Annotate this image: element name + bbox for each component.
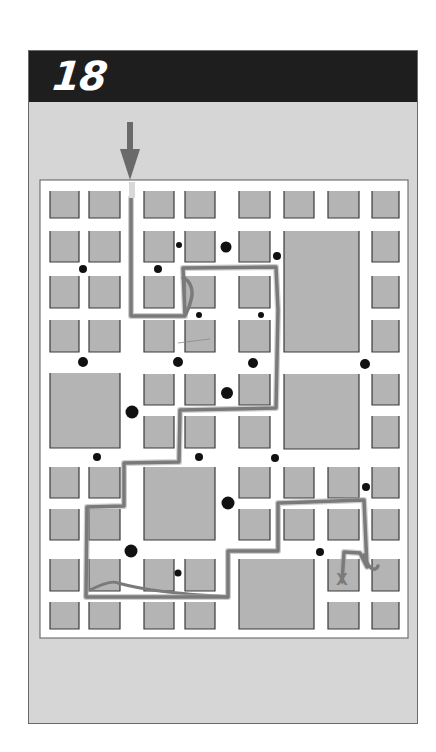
city-block bbox=[89, 509, 120, 540]
city-block bbox=[50, 276, 79, 308]
city-block bbox=[144, 191, 174, 218]
city-block bbox=[372, 191, 399, 218]
city-block bbox=[50, 231, 79, 262]
city-block bbox=[239, 191, 270, 218]
city-block bbox=[328, 191, 359, 218]
city-block bbox=[239, 276, 270, 308]
obstacle-dot bbox=[154, 265, 162, 273]
city-block bbox=[144, 416, 174, 448]
city-block bbox=[239, 231, 270, 262]
obstacle-dot bbox=[125, 545, 138, 558]
obstacle-dot bbox=[93, 453, 101, 461]
city-block bbox=[372, 559, 399, 591]
city-block bbox=[284, 374, 359, 449]
city-block bbox=[50, 191, 79, 218]
obstacle-dot bbox=[173, 357, 183, 367]
city-block bbox=[284, 467, 314, 498]
obstacle-dot bbox=[316, 548, 324, 556]
city-block bbox=[89, 467, 120, 498]
city-block bbox=[372, 374, 399, 405]
city-block bbox=[372, 467, 399, 498]
city-block bbox=[372, 320, 399, 352]
city-block bbox=[144, 602, 174, 629]
city-block bbox=[185, 191, 215, 218]
obstacle-dot bbox=[126, 406, 139, 419]
start-arrow-icon bbox=[120, 122, 140, 180]
obstacle-dot bbox=[196, 312, 202, 318]
city-block bbox=[89, 231, 120, 262]
city-block bbox=[144, 559, 174, 591]
obstacle-dot bbox=[221, 387, 233, 399]
city-block bbox=[89, 602, 120, 629]
city-block bbox=[50, 320, 79, 352]
city-block bbox=[239, 559, 314, 629]
city-block bbox=[239, 374, 270, 405]
city-block bbox=[284, 231, 359, 352]
city-block bbox=[50, 509, 79, 540]
goal-x-marker: X bbox=[336, 570, 348, 589]
city-block bbox=[50, 559, 79, 591]
city-block bbox=[328, 602, 359, 629]
city-block bbox=[372, 231, 399, 262]
city-block bbox=[144, 374, 174, 405]
obstacle-dot bbox=[271, 454, 279, 462]
obstacle-dot bbox=[273, 252, 281, 260]
city-block bbox=[372, 276, 399, 308]
city-block bbox=[328, 509, 359, 540]
city-block bbox=[284, 191, 314, 218]
city-block bbox=[144, 320, 174, 352]
city-block bbox=[239, 467, 270, 498]
maze-map: X bbox=[0, 0, 436, 752]
obstacle-dot bbox=[248, 358, 258, 368]
obstacle-dot bbox=[258, 312, 264, 318]
city-block bbox=[239, 320, 270, 352]
obstacle-dot bbox=[175, 570, 182, 577]
city-block bbox=[239, 416, 270, 448]
city-block bbox=[185, 416, 215, 448]
obstacle-dot bbox=[362, 483, 370, 491]
city-block bbox=[144, 276, 174, 308]
obstacle-dot bbox=[360, 359, 370, 369]
obstacle-dot bbox=[222, 497, 235, 510]
city-block bbox=[185, 231, 215, 262]
city-block bbox=[50, 467, 79, 498]
city-block bbox=[89, 191, 120, 218]
city-block bbox=[89, 320, 120, 352]
city-block bbox=[50, 373, 120, 448]
city-block bbox=[284, 509, 314, 540]
city-block bbox=[372, 416, 399, 448]
obstacle-dot bbox=[176, 242, 182, 248]
city-block bbox=[185, 602, 215, 629]
city-block bbox=[185, 374, 215, 405]
obstacle-dot bbox=[221, 242, 232, 253]
city-block bbox=[89, 559, 120, 591]
start-marker bbox=[129, 182, 135, 198]
city-block bbox=[185, 559, 215, 591]
obstacle-dot bbox=[79, 265, 87, 273]
city-block bbox=[328, 467, 359, 498]
city-block bbox=[144, 467, 215, 540]
obstacle-dot bbox=[195, 453, 203, 461]
city-block bbox=[372, 602, 399, 629]
city-block bbox=[89, 276, 120, 308]
obstacle-dot bbox=[78, 357, 88, 367]
city-block bbox=[144, 231, 174, 262]
city-block bbox=[372, 509, 399, 540]
city-block bbox=[50, 602, 79, 629]
city-block bbox=[239, 509, 270, 540]
city-block bbox=[185, 320, 215, 352]
